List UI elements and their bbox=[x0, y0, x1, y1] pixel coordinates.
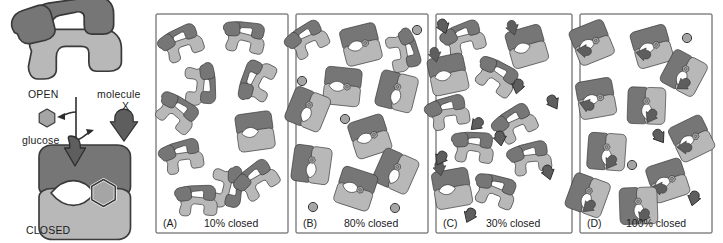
panel-d: (D) 100% closed bbox=[563, 14, 716, 233]
allosteric-protein-figure: (A) 10% closed bbox=[0, 0, 723, 243]
open-label: OPEN bbox=[28, 88, 59, 100]
free-glucose bbox=[340, 114, 349, 123]
open-conformation-glyph bbox=[12, 0, 122, 79]
panel-c: (C) 30% closed bbox=[423, 13, 572, 233]
figure-canvas: (A) 10% closed bbox=[0, 0, 723, 243]
free-glucose bbox=[627, 160, 636, 169]
glucose-glyph bbox=[39, 109, 55, 127]
free-glucose bbox=[682, 33, 691, 42]
panel-b-caption: 80% closed bbox=[344, 217, 398, 229]
molecule-x-label-line1: molecule bbox=[97, 88, 141, 100]
panel-a-tag: (A) bbox=[163, 217, 177, 229]
closed-label: CLOSED bbox=[26, 224, 70, 236]
panel-b-tag: (B) bbox=[303, 217, 317, 229]
free-glucose bbox=[297, 76, 306, 85]
glucose-label: glucose bbox=[22, 134, 60, 146]
molecule-x-label-line2: X bbox=[122, 100, 129, 112]
panel-a: (A) 10% closed bbox=[149, 14, 288, 233]
panel-d-caption: 100% closed bbox=[626, 217, 686, 229]
free-glucose bbox=[308, 202, 317, 211]
panel-d-tag: (D) bbox=[587, 217, 602, 229]
key-diagram bbox=[12, 0, 138, 240]
panel-c-tag: (C) bbox=[443, 217, 458, 229]
molecule-x-glyph bbox=[110, 109, 138, 141]
panel-c-caption: 30% closed bbox=[486, 217, 540, 229]
panel-b: (B) 80% closed bbox=[280, 14, 428, 233]
free-glucose bbox=[412, 25, 421, 34]
free-glucose bbox=[390, 203, 399, 212]
panel-a-caption: 10% closed bbox=[204, 217, 258, 229]
